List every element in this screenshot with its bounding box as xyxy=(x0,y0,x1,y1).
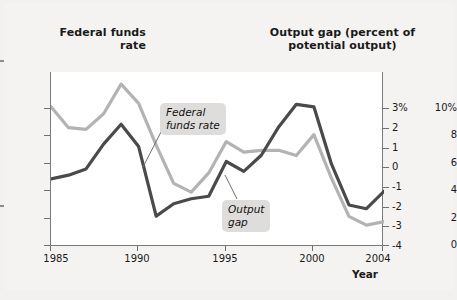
y-right-tick-3 xyxy=(383,108,389,109)
y-right-label-neg1: -1 xyxy=(392,181,426,192)
y-right-label-neg2: -2 xyxy=(392,201,426,212)
y-right-label-2: 2 xyxy=(392,122,426,133)
y-right-tick-2 xyxy=(383,128,389,129)
x-label-1990: 1990 xyxy=(124,253,149,264)
x-tick-1995 xyxy=(225,246,226,251)
x-tick-1990 xyxy=(137,246,138,251)
y-left-label-10: 10% xyxy=(423,102,457,113)
x-label-1985: 1985 xyxy=(43,253,68,264)
right-axis-title: Output gap (percent of potential output) xyxy=(255,26,430,52)
y-left-label-2: 2 xyxy=(423,212,457,223)
y-right-label-0: 0 xyxy=(392,161,426,172)
y-right-label-1: 1 xyxy=(392,142,426,153)
y-right-tick-neg2 xyxy=(383,207,389,208)
page-edge-mark-top xyxy=(0,60,4,62)
left-axis-title: Federal funds rate xyxy=(36,26,146,52)
y-left-tick-8 xyxy=(44,135,50,136)
y-left-label-6: 6 xyxy=(423,157,457,168)
y-right-tick-0 xyxy=(383,167,389,168)
x-label-2000: 2000 xyxy=(299,253,324,264)
x-tick-2004 xyxy=(382,246,383,251)
y-left-tick-6 xyxy=(44,163,50,164)
y-right-label-neg4: -4 xyxy=(392,240,426,251)
y-right-tick-neg4 xyxy=(383,245,389,246)
y-left-tick-4 xyxy=(44,190,50,191)
plot-area xyxy=(50,72,383,246)
y-left-tick-10 xyxy=(44,108,50,109)
annotation-output-gap: Output gap xyxy=(222,200,270,232)
x-tick-1985 xyxy=(50,246,51,251)
y-right-tick-neg1 xyxy=(383,187,389,188)
y-left-label-8: 8 xyxy=(423,129,457,140)
y-right-tick-neg3 xyxy=(383,226,389,227)
x-tick-2000 xyxy=(312,246,313,251)
chart-page: Federal funds rate Output gap (percent o… xyxy=(0,0,457,300)
x-axis-title: Year xyxy=(352,268,378,280)
page-edge-mark-bottom xyxy=(0,205,4,207)
y-right-tick-1 xyxy=(383,148,389,149)
chart-lines xyxy=(51,72,384,246)
y-right-label-neg3: -3 xyxy=(392,220,426,231)
y-left-label-0: 0 xyxy=(423,239,457,250)
x-label-2004: 2004 xyxy=(365,253,390,264)
x-label-1995: 1995 xyxy=(212,253,237,264)
y-left-label-4: 4 xyxy=(423,184,457,195)
y-right-label-3: 3% xyxy=(392,102,426,113)
annotation-federal-funds-rate: Federal funds rate xyxy=(160,103,226,135)
y-left-tick-2 xyxy=(44,218,50,219)
